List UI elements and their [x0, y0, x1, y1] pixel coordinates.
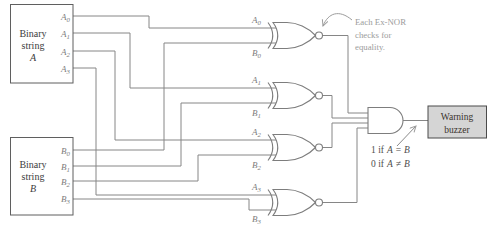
box-b-letter: B	[30, 183, 36, 194]
warning-buzzer-line2: buzzer	[444, 125, 470, 135]
xnor-gate-2	[268, 83, 323, 109]
wire-b3	[73, 199, 279, 210]
pin-label-a1-gate: A1	[251, 75, 261, 86]
warning-buzzer-line1: Warning	[441, 112, 474, 122]
annotation-line2: checks for	[355, 30, 391, 40]
wire-xnor3-out	[322, 123, 368, 148]
box-a-line2: string	[22, 40, 45, 51]
wire-a1	[73, 33, 279, 88]
annotation-line3: equality.	[355, 42, 385, 52]
pin-label-b0-gate: B0	[252, 48, 262, 59]
pin-label-a0-gate: A0	[251, 15, 262, 26]
box-b-line1: Binary	[19, 159, 46, 170]
and-gate	[368, 108, 403, 134]
output-note-line1: 1 ifA=B	[371, 145, 410, 155]
pin-label-a3-gate: A3	[251, 182, 262, 193]
xnor-gate-4	[268, 190, 323, 216]
wire-a2	[73, 51, 279, 140]
wire-a0	[73, 16, 279, 28]
wire-b2	[73, 155, 279, 181]
pin-label-b2-gate: B2	[252, 160, 262, 171]
pin-label-b3-gate: B3	[252, 214, 262, 225]
wire-b0	[73, 43, 279, 150]
annotation-line1: Each Ex-NOR	[355, 17, 406, 27]
wire-xnor2-out	[322, 96, 368, 119]
wire-a3	[73, 68, 279, 195]
output-note-line2: 0 ifA≠B	[371, 159, 410, 169]
pin-label-b1-gate: B1	[252, 108, 261, 119]
box-b-line2: string	[22, 171, 45, 182]
xnor-gate-1	[268, 23, 323, 49]
wire-b1	[73, 103, 279, 166]
pin-label-a2-gate: A2	[251, 127, 262, 138]
box-a-letter: A	[29, 52, 37, 63]
wire-xnor4-out	[322, 128, 368, 203]
comparator-circuit-diagram: Binary string A Binary string B A0 A1 A2…	[0, 0, 495, 236]
annotation-arrow	[323, 14, 352, 26]
box-a-line1: Binary	[19, 28, 46, 39]
xnor-gate-3	[268, 135, 323, 161]
circuit-svg: Binary string A Binary string B A0 A1 A2…	[0, 0, 495, 236]
